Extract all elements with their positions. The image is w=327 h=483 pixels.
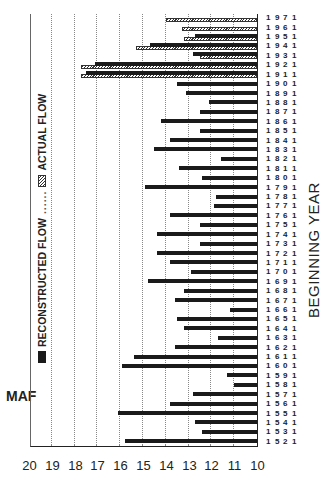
y-tick-label: 20 (16, 458, 44, 473)
x-tick-label: 1551 (264, 410, 298, 419)
x-tick-label: 1731 (264, 240, 298, 249)
x-tick-label: 1611 (264, 353, 298, 362)
x-tick-label: 1861 (264, 118, 298, 127)
x-tick-label: 1711 (264, 259, 298, 268)
bar-reconstructed-flow (221, 157, 257, 161)
x-tick-label: 1591 (264, 372, 298, 381)
x-tick-label: 1921 (264, 61, 298, 70)
bar-reconstructed-flow (193, 52, 257, 56)
legend-swatch-actual (38, 175, 46, 187)
gridline (210, 14, 211, 446)
legend-leader-dots: ...... (36, 191, 48, 215)
x-tick-label: 1891 (264, 90, 298, 99)
bar-reconstructed-flow (200, 110, 257, 114)
x-tick-label: 1681 (264, 287, 298, 296)
bar-reconstructed-flow (157, 251, 257, 255)
bar-reconstructed-flow (157, 232, 257, 236)
x-tick-label: 1531 (264, 428, 298, 437)
bar-reconstructed-flow (186, 91, 257, 95)
bar-reconstructed-flow (95, 62, 257, 66)
bar-reconstructed-flow (202, 430, 257, 434)
x-tick-label: 1841 (264, 137, 298, 146)
x-tick-label: 1781 (264, 193, 298, 202)
bar-reconstructed-flow (175, 298, 257, 302)
gridline (165, 14, 166, 446)
bar-reconstructed-flow (234, 383, 257, 387)
x-axis-label: BEGINNING YEAR (305, 182, 322, 318)
bar-reconstructed-flow (161, 119, 257, 123)
bar-reconstructed-flow (145, 185, 257, 189)
x-tick-label: 1601 (264, 363, 298, 372)
x-tick-label: 1911 (264, 71, 298, 80)
bar-reconstructed-flow (216, 195, 257, 199)
x-tick-label: 1631 (264, 334, 298, 343)
gridline (233, 14, 234, 446)
x-tick-label: 1651 (264, 315, 298, 324)
x-tick-label: 1661 (264, 306, 298, 315)
bar-reconstructed-flow (230, 308, 257, 312)
x-tick-label: 1961 (264, 24, 298, 33)
x-tick-label: 1561 (264, 400, 298, 409)
gridline (188, 14, 189, 446)
x-tick-label: 1641 (264, 325, 298, 334)
x-tick-label: 1771 (264, 202, 298, 211)
bar-reconstructed-flow (150, 43, 257, 47)
gridline (51, 14, 52, 446)
x-tick-label: 1541 (264, 419, 298, 428)
bar-reconstructed-flow (148, 279, 257, 283)
x-tick-label: 1581 (264, 381, 298, 390)
bar-reconstructed-flow (200, 242, 257, 246)
bar-actual-flow (166, 18, 257, 22)
x-tick-label: 1621 (264, 344, 298, 353)
bar-reconstructed-flow (218, 336, 257, 340)
bar-reconstructed-flow (125, 439, 257, 443)
bar-reconstructed-flow (214, 204, 257, 208)
bar-reconstructed-flow (170, 138, 257, 142)
bar-reconstructed-flow (177, 317, 257, 321)
x-tick-label: 1701 (264, 268, 298, 277)
x-tick-label: 1821 (264, 155, 298, 164)
legend: RECONSTRUCTED FLOW ...... ACTUAL FLOW (36, 94, 48, 363)
x-tick-label: 1571 (264, 391, 298, 400)
bar-reconstructed-flow (170, 213, 257, 217)
x-tick-label: 1881 (264, 99, 298, 108)
bar-reconstructed-flow (184, 326, 257, 330)
bar-actual-flow (182, 27, 257, 31)
legend-label-actual: ACTUAL FLOW (36, 94, 48, 171)
x-tick-label: 1901 (264, 80, 298, 89)
x-tick-label: 1721 (264, 250, 298, 259)
bar-reconstructed-flow (177, 82, 257, 86)
gridline (142, 14, 143, 446)
gridline (74, 14, 75, 446)
x-tick-label: 1931 (264, 52, 298, 61)
bar-reconstructed-flow (195, 34, 257, 38)
rotated-chart: MAF 1011121314151617181920 RECONSTRUCTED… (0, 0, 327, 483)
legend-swatch-reconstructed (38, 351, 46, 363)
x-tick-label: 1871 (264, 108, 298, 117)
x-tick-label: 1751 (264, 221, 298, 230)
x-tick-label: 1801 (264, 174, 298, 183)
bar-reconstructed-flow (118, 411, 257, 415)
x-tick-label: 1671 (264, 297, 298, 306)
bar-reconstructed-flow (193, 392, 257, 396)
bar-reconstructed-flow (122, 364, 257, 368)
x-tick-label: 1811 (264, 165, 298, 174)
legend-label-reconstructed: RECONSTRUCTED FLOW (36, 218, 48, 347)
bar-reconstructed-flow (195, 420, 257, 424)
x-tick-label: 1851 (264, 127, 298, 136)
bar-reconstructed-flow (154, 148, 257, 152)
bar-reconstructed-flow (175, 345, 257, 349)
x-tick-label: 1951 (264, 33, 298, 42)
x-tick-label: 1521 (264, 438, 298, 447)
bar-reconstructed-flow (227, 373, 257, 377)
x-tick-label: 1691 (264, 278, 298, 287)
bar-reconstructed-flow (184, 289, 257, 293)
bar-reconstructed-flow (179, 166, 257, 170)
gridline (119, 14, 120, 446)
bar-reconstructed-flow (200, 223, 257, 227)
bar-reconstructed-flow (202, 176, 257, 180)
bar-reconstructed-flow (170, 260, 257, 264)
x-tick-label: 1741 (264, 231, 298, 240)
x-tick-label: 1831 (264, 146, 298, 155)
bar-reconstructed-flow (209, 100, 257, 104)
